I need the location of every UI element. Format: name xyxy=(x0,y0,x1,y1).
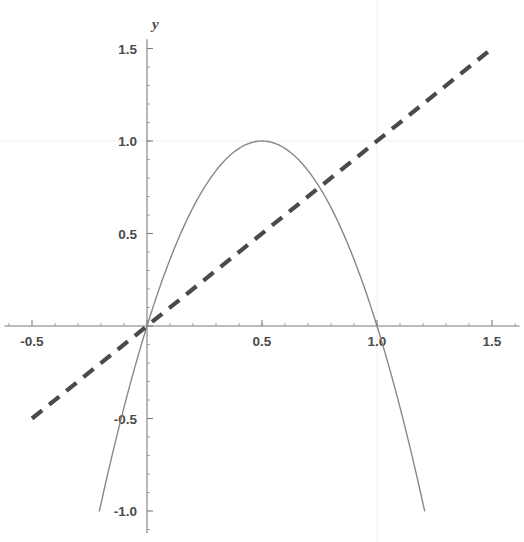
y-tick-label: 0.5 xyxy=(118,227,137,242)
y-tick-label: -1.0 xyxy=(114,504,137,519)
y-tick-label: -0.5 xyxy=(114,412,138,427)
chart-svg: -0.50.51.01.5 1.51.00.5-0.5-1.0 x y xyxy=(0,0,524,542)
x-tick-label: 1.5 xyxy=(483,334,502,349)
y-tick-label: 1.0 xyxy=(118,134,137,149)
y-axis-label: y xyxy=(150,16,159,32)
major-ticks-group xyxy=(32,49,492,512)
series-identity-line-path xyxy=(32,49,492,419)
minor-ticks-group xyxy=(9,67,515,530)
y-tick-label: 1.5 xyxy=(118,42,137,57)
x-tick-label: -0.5 xyxy=(20,334,44,349)
x-tick-label: 0.5 xyxy=(253,334,272,349)
x-tick-labels-group: -0.50.51.01.5 xyxy=(20,334,502,349)
plot-canvas: -0.50.51.01.5 1.51.00.5-0.5-1.0 x y xyxy=(0,0,524,542)
y-tick-labels-group: 1.51.00.5-0.5-1.0 xyxy=(114,42,138,520)
gridlines-group xyxy=(0,0,524,542)
